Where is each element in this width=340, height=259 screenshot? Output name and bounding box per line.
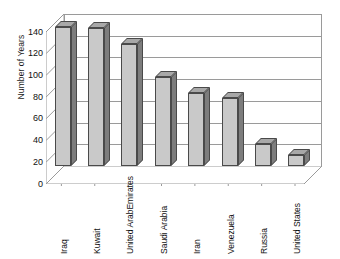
bar-front-face: [55, 27, 71, 166]
x-tick-label-line: United States: [292, 203, 302, 254]
x-tick-label: Iraq: [59, 239, 69, 254]
y-tick-label: 100: [17, 71, 43, 80]
x-tick-label-line: Emirates: [125, 176, 135, 210]
bar-front-face: [222, 98, 238, 166]
bar-side-face: [71, 21, 77, 166]
y-tick-label: 20: [17, 158, 43, 167]
bar: [222, 92, 238, 166]
bar-front-face: [255, 144, 271, 166]
bar-chart: Number of Years 020406080100120140 IraqK…: [0, 0, 340, 259]
x-tick-label: Kuwait: [92, 228, 102, 254]
x-tick-label: Venezuela: [226, 214, 236, 254]
bar-side-face: [238, 92, 244, 166]
bar-front-face: [188, 93, 204, 166]
y-axis-tick-labels: 020406080100120140: [17, 0, 43, 259]
x-tick-label-line: Russia: [259, 228, 269, 254]
x-tick-label-line: United Arab: [125, 210, 135, 254]
bar: [155, 71, 171, 166]
bar-front-face: [121, 44, 137, 166]
x-tick-label-line: Venezuela: [226, 214, 236, 254]
bar-side-face: [204, 87, 210, 166]
plot-area: [46, 14, 331, 184]
x-tick-label-line: Iraq: [59, 239, 69, 254]
y-tick-label: 80: [17, 93, 43, 102]
bar: [88, 22, 104, 166]
y-tick-label: 40: [17, 136, 43, 145]
bar-front-face: [288, 155, 304, 166]
bar: [288, 149, 304, 166]
y-tick-label: 140: [17, 28, 43, 37]
x-tick-label-line: Kuwait: [92, 228, 102, 254]
bar-front-face: [88, 28, 104, 166]
x-tick-label: Russia: [259, 228, 269, 254]
y-tick-label: 120: [17, 49, 43, 58]
bar-side-face: [104, 22, 110, 166]
bar-front-face: [155, 77, 171, 166]
bar: [121, 38, 137, 166]
bar-side-face: [137, 38, 143, 166]
x-tick-label: Iran: [192, 239, 202, 254]
bar: [55, 21, 71, 166]
x-axis: [46, 166, 331, 184]
x-tick-label: United ArabEmirates: [125, 176, 135, 254]
bar-side-face: [171, 71, 177, 166]
bar: [188, 87, 204, 166]
x-tick-label-line: Iran: [192, 239, 202, 254]
y-tick-label: 0: [17, 180, 43, 189]
x-tick-label: United States: [292, 203, 302, 254]
x-tick-label: Saudi Arabia: [159, 206, 169, 254]
x-tick-marks-svg: [46, 166, 331, 186]
x-tick-label-line: Saudi Arabia: [159, 206, 169, 254]
x-axis-tick-labels: IraqKuwaitUnited ArabEmiratesSaudi Arabi…: [46, 186, 336, 259]
y-tick-label: 60: [17, 114, 43, 123]
bar: [255, 138, 271, 166]
